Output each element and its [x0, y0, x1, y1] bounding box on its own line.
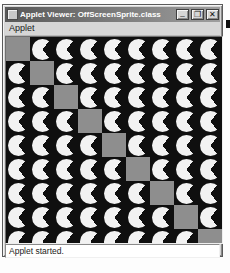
gray-square-sprite [54, 85, 78, 109]
pacman-sprite [200, 159, 221, 180]
pacman-sprite [104, 111, 125, 132]
pacman-sprite [152, 87, 173, 108]
applet-canvas [5, 36, 223, 244]
titlebar[interactable]: Applet Viewer: OffScreenSprite.class _ ❐… [5, 7, 220, 22]
pacman-sprite [80, 159, 101, 180]
pacman-sprite [176, 63, 197, 84]
pacman-sprite [128, 87, 149, 108]
menu-item-applet[interactable]: Applet [5, 22, 39, 35]
pacman-sprite [8, 63, 29, 84]
pacman-sprite [176, 111, 197, 132]
pacman-sprite [176, 159, 197, 180]
pacman-sprite [56, 135, 77, 156]
pacman-sprite [8, 207, 29, 228]
gray-square-sprite [126, 157, 150, 181]
pacman-sprite [8, 231, 29, 245]
minimize-button[interactable]: _ [176, 9, 189, 20]
pacman-sprite [56, 183, 77, 204]
pacman-sprite [80, 135, 101, 156]
applet-viewer-window: Applet Viewer: OffScreenSprite.class _ ❐… [2, 4, 223, 257]
pacman-sprite [32, 207, 53, 228]
pacman-sprite [200, 63, 221, 84]
gray-square-sprite [102, 133, 126, 157]
pacman-sprite [56, 207, 77, 228]
pacman-sprite [104, 207, 125, 228]
pacman-sprite [56, 63, 77, 84]
pacman-sprite [176, 39, 197, 60]
applet-viewer-icon [7, 9, 18, 20]
pacman-sprite [32, 135, 53, 156]
pacman-sprite [176, 87, 197, 108]
pacman-sprite [152, 159, 173, 180]
pacman-sprite [104, 159, 125, 180]
minimize-icon: _ [180, 8, 184, 17]
gray-square-sprite [30, 61, 54, 85]
pacman-sprite [104, 183, 125, 204]
pacman-sprite [32, 111, 53, 132]
pacman-sprite [32, 87, 53, 108]
pacman-sprite [200, 207, 221, 228]
status-bar: Applet started. [5, 244, 220, 258]
pacman-sprite [56, 39, 77, 60]
pacman-sprite [56, 231, 77, 245]
pacman-sprite [104, 231, 125, 245]
pacman-sprite [128, 135, 149, 156]
pacman-sprite [80, 63, 101, 84]
pacman-sprite [32, 39, 53, 60]
menu-bar: Applet [5, 22, 220, 36]
maximize-icon: ❐ [194, 10, 201, 19]
pacman-sprite [56, 159, 77, 180]
pacman-sprite [8, 159, 29, 180]
pacman-sprite [104, 87, 125, 108]
pacman-sprite [176, 183, 197, 204]
pacman-sprite [152, 231, 173, 245]
pacman-sprite [200, 183, 221, 204]
pacman-sprite [152, 63, 173, 84]
gray-square-sprite [78, 109, 102, 133]
gray-square-sprite [174, 205, 198, 229]
status-text: Applet started. [6, 245, 64, 257]
pacman-sprite [8, 183, 29, 204]
pacman-sprite [128, 111, 149, 132]
gray-square-sprite [6, 37, 30, 61]
pacman-sprite [128, 231, 149, 245]
pacman-sprite [32, 159, 53, 180]
close-button[interactable]: ✕ [206, 9, 219, 20]
pacman-sprite [200, 39, 221, 60]
pacman-sprite [8, 135, 29, 156]
close-icon: ✕ [209, 10, 216, 19]
pacman-sprite [200, 111, 221, 132]
pacman-sprite [80, 231, 101, 245]
pacman-sprite [128, 183, 149, 204]
pacman-sprite [80, 39, 101, 60]
pacman-sprite [104, 63, 125, 84]
maximize-button[interactable]: ❐ [191, 9, 204, 20]
pacman-sprite [128, 207, 149, 228]
pacman-sprite [152, 39, 173, 60]
pacman-sprite [32, 183, 53, 204]
pacman-sprite [56, 111, 77, 132]
pacman-sprite [176, 231, 197, 245]
pacman-sprite [200, 87, 221, 108]
window-title: Applet Viewer: OffScreenSprite.class [20, 7, 174, 22]
pacman-sprite [128, 63, 149, 84]
pacman-sprite [104, 39, 125, 60]
page-text-fragment [226, 20, 230, 28]
pacman-sprite [152, 207, 173, 228]
pacman-sprite [152, 111, 173, 132]
pacman-sprite [200, 135, 221, 156]
pacman-sprite [80, 207, 101, 228]
pacman-sprite [80, 183, 101, 204]
pacman-sprite [8, 111, 29, 132]
gray-square-sprite [150, 181, 174, 205]
pacman-sprite [152, 135, 173, 156]
pacman-sprite [176, 135, 197, 156]
pacman-sprite [128, 39, 149, 60]
pacman-sprite [32, 231, 53, 245]
gray-square-sprite [198, 229, 222, 244]
pacman-sprite [80, 87, 101, 108]
pacman-sprite [8, 87, 29, 108]
